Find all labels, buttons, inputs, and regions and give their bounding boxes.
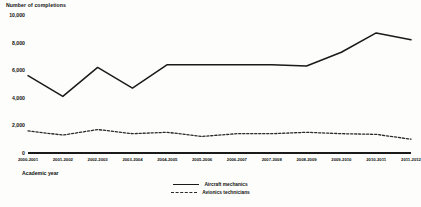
y-axis-tick-label: 2,000 (12, 122, 25, 128)
x-axis-tick-label: 2001-2002 (53, 157, 73, 162)
series-lines (28, 15, 411, 153)
y-axis-tick-label: 8,000 (12, 40, 25, 46)
x-axis-tick-label: 2002-2003 (88, 157, 108, 162)
y-axis-tick-label: 4,000 (12, 95, 25, 101)
x-axis-tick-label: 2008-2009 (296, 157, 316, 162)
dashed-line-icon (171, 192, 197, 193)
chart-y-axis-title: Number of completions (6, 2, 66, 8)
series-line-2 (28, 130, 411, 140)
x-axis-tick-label: 2006-2007 (227, 157, 247, 162)
x-axis-baseline (28, 152, 411, 154)
chart-x-axis-title: Academic year (22, 170, 59, 176)
x-axis-tick-label: 2005-2006 (192, 157, 212, 162)
solid-line-icon (173, 184, 199, 185)
legend-label: Avionics technicians (202, 190, 250, 195)
legend-label: Aircraft mechanics (204, 182, 247, 187)
series-line-1 (28, 33, 411, 96)
legend-item[interactable]: Avionics technicians (171, 190, 250, 195)
x-axis-tick-label: 2000-2001 (18, 157, 38, 162)
x-axis-tick-label: 2003-2004 (122, 157, 142, 162)
y-axis-tick-label: 10,000 (9, 12, 25, 18)
chart-legend: Aircraft mechanicsAvionics technicians (0, 182, 421, 195)
x-axis-tick-label: 2009-2010 (331, 157, 351, 162)
x-axis-tick-label: 2004-2005 (157, 157, 177, 162)
x-axis-tick-label: 2011-2012 (401, 157, 421, 162)
y-axis-tick-label: 6,000 (12, 67, 25, 73)
line-chart: Number of completions 02,0004,0006,0008,… (0, 0, 421, 207)
y-axis-tick-label: 0 (22, 150, 25, 156)
legend-item[interactable]: Aircraft mechanics (173, 182, 247, 187)
plot-area: 02,0004,0006,0008,00010,000 (28, 15, 411, 153)
x-axis-tick-label: 2007-2008 (262, 157, 282, 162)
x-axis-tick-label: 2010-2011 (366, 157, 386, 162)
